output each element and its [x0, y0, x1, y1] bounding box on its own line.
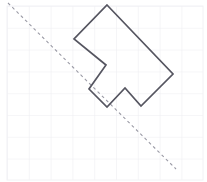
grid-background	[7, 6, 203, 180]
diagram-canvas	[0, 0, 207, 182]
reflection-diagram	[0, 0, 207, 182]
